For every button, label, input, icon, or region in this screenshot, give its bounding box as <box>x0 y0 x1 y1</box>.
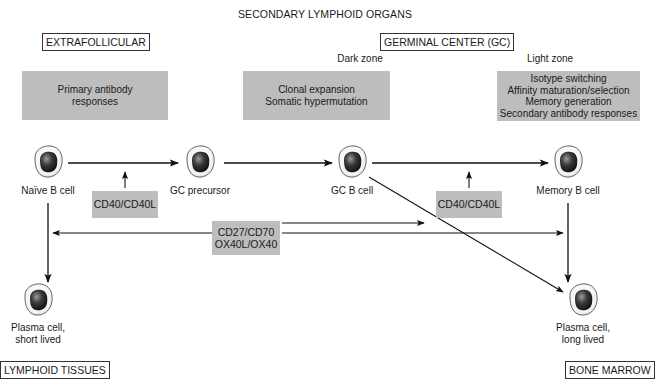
function-line: Secondary antibody responses <box>500 108 637 120</box>
costim-line: OX40L/OX40 <box>215 238 277 251</box>
plasma-long-line: Plasma cell, <box>543 322 623 334</box>
plasma-cell-short-label: Plasma cell, short lived <box>0 322 78 346</box>
plasma-cell-short-icon <box>25 284 52 315</box>
plasma-cell-long-label: Plasma cell, long lived <box>543 322 623 346</box>
function-line: Affinity maturation/selection <box>507 85 629 97</box>
plasma-short-line: Plasma cell, <box>0 322 78 334</box>
light-zone-label: Light zone <box>510 53 590 64</box>
naive-b-cell-icon <box>35 146 62 177</box>
region-lymphoid-tissues: LYMPHOID TISSUES <box>0 361 110 379</box>
function-line: Somatic hypermutation <box>265 96 367 108</box>
function-line: Primary antibody <box>57 84 132 96</box>
plasma-cell-long-icon <box>570 284 597 315</box>
costim-line: CD27/CD70 <box>218 226 275 239</box>
plasma-long-line: long lived <box>543 334 623 346</box>
gc-b-cell-label: GC B cell <box>312 185 392 197</box>
function-box-dark-zone: Clonal expansion Somatic hypermutation <box>243 71 390 120</box>
dark-zone-label: Dark zone <box>320 53 400 64</box>
gc-precursor-cell-icon <box>187 146 214 177</box>
memory-b-cell-icon <box>555 146 582 177</box>
signal-cd40-right: CD40/CD40L <box>436 191 502 218</box>
gc-precursor-label: GC precursor <box>160 185 240 197</box>
function-line: Isotype switching <box>530 73 606 85</box>
memory-b-cell-label: Memory B cell <box>528 185 608 197</box>
gc-b-cell-icon <box>339 146 366 177</box>
region-germinal-center: GERMINAL CENTER (GC) <box>380 33 514 51</box>
function-box-extrafollicular: Primary antibody responses <box>22 71 168 120</box>
function-line: Memory generation <box>525 96 611 108</box>
signal-cd40-left: CD40/CD40L <box>92 191 158 218</box>
signal-costimulation: CD27/CD70 OX40L/OX40 <box>212 221 280 255</box>
function-box-light-zone: Isotype switching Affinity maturation/se… <box>497 71 640 121</box>
region-bone-marrow: BONE MARROW <box>565 361 655 379</box>
naive-b-cell-label: Naïve B cell <box>8 185 88 197</box>
function-line: Clonal expansion <box>278 84 355 96</box>
region-extrafollicular: EXTRAFOLLICULAR <box>42 33 150 51</box>
plasma-short-line: short lived <box>0 334 78 346</box>
diagram-title: SECONDARY LYMPHOID ORGANS <box>0 8 650 20</box>
function-line: responses <box>72 96 118 108</box>
